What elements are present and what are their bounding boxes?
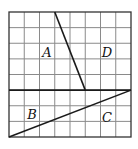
label-c: C [102, 110, 112, 125]
label-d: D [101, 45, 113, 60]
label-b: B [26, 107, 37, 122]
grid-figure: A D B C [0, 0, 138, 149]
label-a: A [41, 45, 51, 60]
